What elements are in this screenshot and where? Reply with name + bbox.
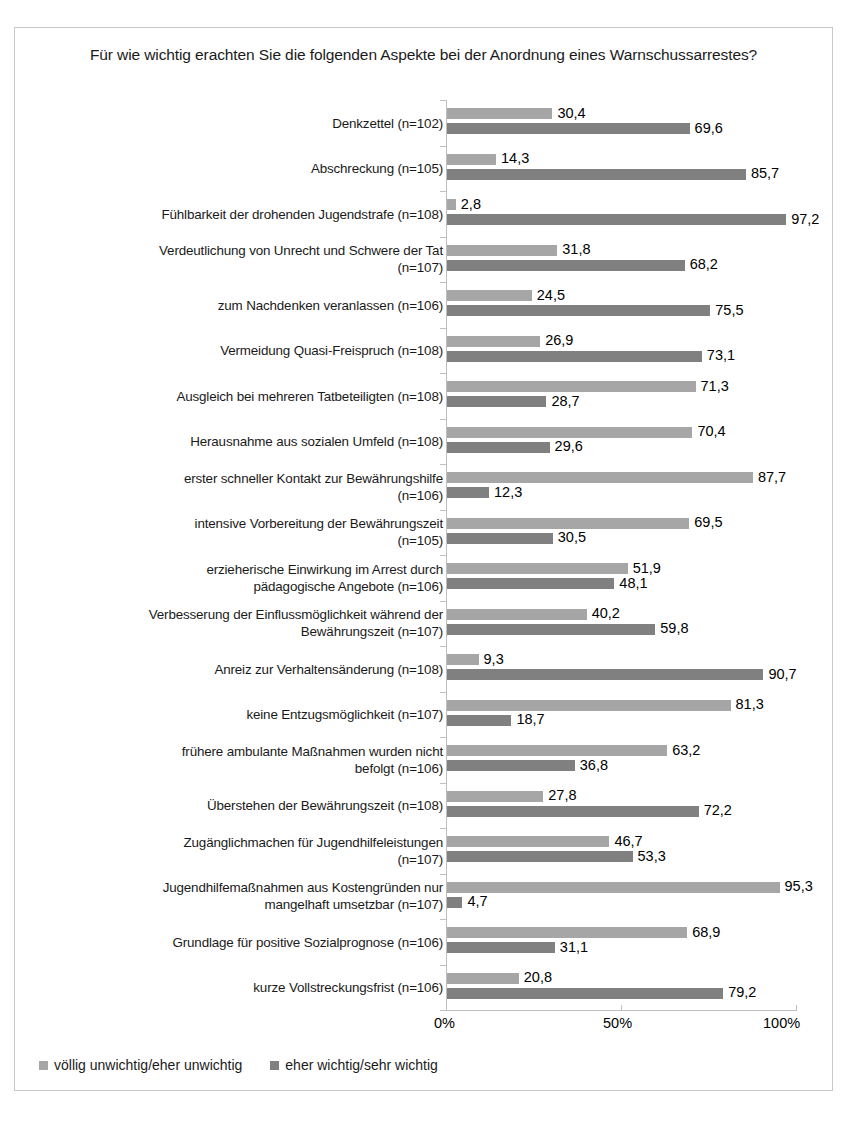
plot-body: Denkzettel (n=102)30,469,6Abschreckung (… (15, 100, 832, 1010)
legend-item-eher-wichtig[interactable]: eher wichtig/sehr wichtig (270, 1057, 438, 1073)
category-axis-tick (440, 783, 446, 784)
bar-dark[interactable] (446, 624, 655, 635)
category-label: Ausgleich bei mehreren Tatbeteiligten (n… (33, 387, 443, 404)
bar-value-label: 26,9 (540, 331, 573, 350)
category-plot-area: 30,469,6 (446, 100, 796, 146)
category-plot-area: 31,868,2 (446, 237, 796, 283)
axis-tick-label-0: 0% (434, 1015, 455, 1031)
bar-light[interactable] (446, 836, 609, 847)
bar-dark[interactable] (446, 442, 550, 453)
bar-value-label: 31,8 (557, 240, 590, 259)
bar-dark[interactable] (446, 214, 786, 225)
bar-light[interactable] (446, 154, 496, 165)
bar-light[interactable] (446, 108, 552, 119)
bar-value-label: 95,3 (780, 877, 813, 896)
legend-label-dark: eher wichtig/sehr wichtig (285, 1057, 438, 1073)
category-plot-area: 69,530,5 (446, 510, 796, 556)
bar-dark[interactable] (446, 533, 553, 544)
bar-dark[interactable] (446, 260, 685, 271)
bar-light[interactable] (446, 563, 628, 574)
bar-value-label: 2,8 (456, 195, 481, 214)
bar-light[interactable] (446, 927, 687, 938)
category-plot-area: 27,872,2 (446, 783, 796, 829)
bar-dark[interactable] (446, 897, 462, 908)
bar-value-label: 29,6 (550, 437, 583, 456)
category-label: Jugendhilfemaßnahmen aus Kostengründen n… (33, 879, 443, 913)
category-label: erster schneller Kontakt zur Bewährungsh… (33, 470, 443, 504)
bar-dark[interactable] (446, 305, 710, 316)
bar-value-label: 90,7 (763, 665, 796, 684)
category-row: Fühlbarkeit der drohenden Jugendstrafe (… (15, 191, 832, 237)
category-axis-tick (440, 874, 446, 875)
category-row: Überstehen der Bewährungszeit (n=108)27,… (15, 783, 832, 829)
bar-dark[interactable] (446, 715, 511, 726)
bar-value-label: 18,7 (511, 710, 544, 729)
bar-dark[interactable] (446, 806, 699, 817)
bar-dark[interactable] (446, 988, 723, 999)
chart-title: Für wie wichtig erachten Sie die folgend… (15, 44, 832, 65)
category-plot-area: 20,879,2 (446, 965, 796, 1011)
category-axis-tick (440, 828, 446, 829)
bar-light[interactable] (446, 745, 667, 756)
category-row: kurze Vollstreckungsfrist (n=106)20,879,… (15, 965, 832, 1011)
category-plot-area: 95,34,7 (446, 874, 796, 920)
bar-value-label: 71,3 (696, 377, 729, 396)
category-plot-area: 26,973,1 (446, 328, 796, 374)
bar-dark[interactable] (446, 123, 690, 134)
bar-dark[interactable] (446, 169, 746, 180)
bar-dark[interactable] (446, 760, 575, 771)
bar-value-label: 69,5 (689, 513, 722, 532)
bar-dark[interactable] (446, 487, 489, 498)
bar-value-label: 75,5 (710, 301, 743, 320)
chart-frame: Für wie wichtig erachten Sie die folgend… (14, 27, 833, 1091)
category-axis-tick (440, 282, 446, 283)
category-axis-tick (440, 464, 446, 465)
bar-light[interactable] (446, 700, 731, 711)
bar-light[interactable] (446, 427, 692, 438)
bar-light[interactable] (446, 973, 519, 984)
category-row: Zugänglichmachen für Jugendhilfeleistung… (15, 828, 832, 874)
legend-label-light: völlig unwichtig/eher unwichtig (54, 1057, 242, 1073)
bar-light[interactable] (446, 245, 557, 256)
bar-value-label: 4,7 (462, 892, 487, 911)
category-label: intensive Vorbereitung der Bewährungszei… (33, 515, 443, 549)
bar-light[interactable] (446, 791, 543, 802)
bar-light[interactable] (446, 336, 540, 347)
bar-light[interactable] (446, 472, 753, 483)
bar-value-label: 31,1 (555, 938, 588, 957)
bar-dark[interactable] (446, 942, 555, 953)
category-plot-area: 40,259,8 (446, 601, 796, 647)
category-axis-tick (440, 601, 446, 602)
category-label: Fühlbarkeit der drohenden Jugendstrafe (… (33, 205, 443, 222)
category-label: erzieherische Einwirkung im Arrest durch… (33, 561, 443, 595)
category-label: Zugänglichmachen für Jugendhilfeleistung… (33, 834, 443, 868)
bar-light[interactable] (446, 609, 587, 620)
bar-value-label: 68,9 (687, 923, 720, 942)
bar-light[interactable] (446, 290, 532, 301)
category-row: zum Nachdenken veranlassen (n=106)24,575… (15, 282, 832, 328)
bar-light[interactable] (446, 381, 696, 392)
bar-light[interactable] (446, 882, 780, 893)
axis-tick-0 (446, 1005, 447, 1011)
legend-item-voellig-unwichtig[interactable]: völlig unwichtig/eher unwichtig (39, 1057, 242, 1073)
bar-value-label: 24,5 (532, 286, 565, 305)
category-plot-area: 63,236,8 (446, 737, 796, 783)
bar-dark[interactable] (446, 578, 614, 589)
bar-dark[interactable] (446, 351, 702, 362)
bar-light[interactable] (446, 654, 479, 665)
bar-value-label: 30,5 (553, 528, 586, 547)
bar-dark[interactable] (446, 851, 633, 862)
category-label: Anreiz zur Verhaltensänderung (n=108) (33, 660, 443, 677)
bar-light[interactable] (446, 518, 689, 529)
category-label: Herausnahme aus sozialen Umfeld (n=108) (33, 433, 443, 450)
category-plot-area: 68,931,1 (446, 919, 796, 965)
bar-dark[interactable] (446, 396, 546, 407)
category-row: Jugendhilfemaßnahmen aus Kostengründen n… (15, 874, 832, 920)
bar-value-label: 40,2 (587, 604, 620, 623)
value-axis-vertical-line (446, 100, 447, 1011)
category-label: Überstehen der Bewährungszeit (n=108) (33, 797, 443, 814)
bar-dark[interactable] (446, 669, 763, 680)
bar-light[interactable] (446, 199, 456, 210)
category-row: Denkzettel (n=102)30,469,6 (15, 100, 832, 146)
category-label: kurze Vollstreckungsfrist (n=106) (33, 979, 443, 996)
